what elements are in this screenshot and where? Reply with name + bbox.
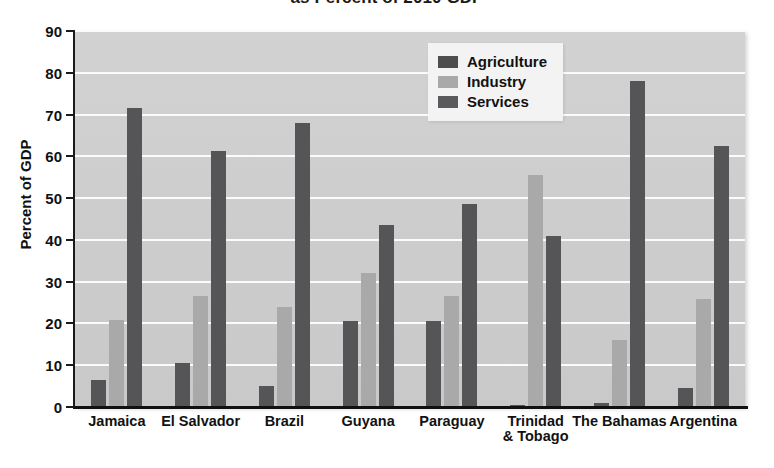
x-axis-line [73, 406, 748, 409]
y-tick-mark [66, 364, 74, 366]
bar-agriculture-jamaica [91, 380, 106, 407]
bar-industry-jamaica [109, 320, 124, 407]
bar-services-the-bahamas [630, 81, 645, 407]
y-tick-mark [66, 155, 74, 157]
y-tick-mark [66, 72, 74, 74]
x-tick-label: Jamaica [88, 414, 145, 429]
gridline [75, 72, 745, 74]
bar-services-guyana [379, 225, 394, 407]
x-tick-label: El Salvador [161, 414, 240, 429]
legend-label: Services [467, 93, 529, 110]
bar-services-brazil [295, 123, 310, 407]
chart-title: as Percent of 2010 GDP [0, 0, 774, 8]
y-tick-label: 10 [28, 357, 62, 374]
chart-legend: AgricultureIndustryServices [428, 43, 563, 121]
bar-agriculture-guyana [343, 321, 358, 407]
x-tick-label: Argentina [669, 414, 737, 429]
bar-industry-paraguay [444, 296, 459, 407]
x-tick-label: Trinidad& Tobago [503, 414, 569, 444]
y-tick-label: 50 [28, 190, 62, 207]
x-tick-label: Paraguay [419, 414, 484, 429]
x-tick-label: Brazil [265, 414, 305, 429]
y-tick-mark [66, 406, 74, 408]
legend-swatch-icon [438, 76, 458, 88]
y-tick-label: 90 [28, 23, 62, 40]
bar-agriculture-argentina [678, 388, 693, 407]
bar-industry-trinidad-tobago [528, 175, 543, 407]
y-tick-mark [66, 30, 74, 32]
bar-services-trinidad-tobago [546, 236, 561, 407]
legend-item-industry[interactable]: Industry [438, 73, 547, 90]
legend-swatch-icon [438, 56, 458, 68]
y-tick-label: 30 [28, 273, 62, 290]
bar-chart: as Percent of 2010 GDP Percent of GDP 01… [0, 0, 774, 468]
x-tick-label: The Bahamas [572, 414, 666, 429]
y-tick-label: 40 [28, 231, 62, 248]
y-tick-mark [66, 281, 74, 283]
legend-swatch-icon [438, 96, 458, 108]
y-tick-label: 0 [28, 399, 62, 416]
bar-industry-el-salvador [193, 296, 208, 407]
plot-area [75, 31, 745, 407]
legend-item-services[interactable]: Services [438, 93, 547, 110]
legend-label: Agriculture [467, 53, 547, 70]
bar-services-argentina [714, 146, 729, 407]
bar-industry-the-bahamas [612, 340, 627, 407]
bar-industry-guyana [361, 273, 376, 407]
bar-agriculture-el-salvador [175, 363, 190, 407]
legend-item-agriculture[interactable]: Agriculture [438, 53, 547, 70]
bar-agriculture-brazil [259, 386, 274, 407]
y-tick-mark [66, 322, 74, 324]
bar-services-jamaica [127, 108, 142, 407]
y-tick-label: 20 [28, 315, 62, 332]
x-tick-label: Guyana [342, 414, 395, 429]
legend-label: Industry [467, 73, 526, 90]
bar-agriculture-paraguay [426, 321, 441, 407]
y-tick-label: 70 [28, 106, 62, 123]
y-tick-mark [66, 197, 74, 199]
y-tick-label: 60 [28, 148, 62, 165]
y-tick-mark [66, 239, 74, 241]
y-tick-mark [66, 114, 74, 116]
bar-services-paraguay [462, 204, 477, 407]
y-tick-label: 80 [28, 64, 62, 81]
y-axis-line [73, 30, 75, 409]
bar-industry-argentina [696, 299, 711, 407]
gridline [75, 30, 745, 32]
bar-industry-brazil [277, 307, 292, 407]
bar-services-el-salvador [211, 151, 226, 407]
